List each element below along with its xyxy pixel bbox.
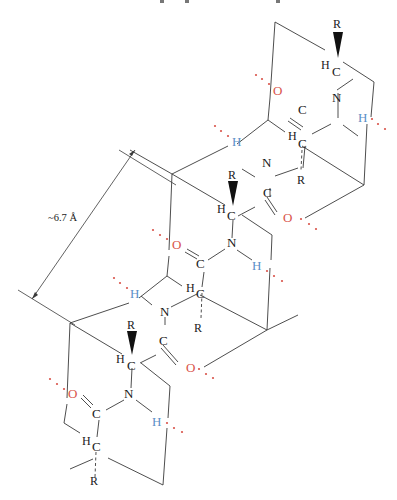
- atom-h-bond-donor: H: [252, 258, 261, 273]
- bond-n-h5: [136, 400, 152, 412]
- measure-tick-bottom: [18, 290, 75, 325]
- bond-n-c: [312, 124, 331, 134]
- double-bond-co-b5: [81, 398, 91, 408]
- atom-c: C: [92, 406, 101, 421]
- atom-r: R: [297, 173, 305, 187]
- wedge-bond-icon-lower: [127, 331, 137, 355]
- atom-n: N: [227, 235, 237, 250]
- atom-h: H: [288, 129, 297, 143]
- atom-h: H: [186, 281, 195, 295]
- cropped-caption-fragment: [160, 0, 280, 3]
- double-bond-co-b4: [161, 348, 176, 365]
- atom-c: C: [159, 333, 168, 348]
- atom-r: R: [228, 168, 236, 182]
- atom-labels: R H C O N C H H N H C R R H C C O O N H …: [68, 17, 367, 488]
- distance-label: ~6.7 Å: [48, 212, 77, 223]
- wedge-bond-icon-top: [333, 32, 343, 58]
- atom-n: N: [124, 386, 134, 401]
- atom-r: R: [90, 474, 98, 488]
- atom-c: C: [227, 208, 236, 223]
- measure-arrow-line: [32, 150, 135, 299]
- peptide-helix-diagram: ~6.7 Å: [0, 0, 397, 500]
- atom-r: R: [194, 321, 202, 335]
- atom-n: N: [262, 155, 272, 170]
- atom-h: H: [217, 202, 226, 216]
- atom-c: C: [298, 136, 307, 151]
- atom-h: H: [116, 352, 125, 366]
- bond-ca-c: [238, 207, 255, 216]
- atom-r: R: [127, 318, 135, 332]
- double-bond-co-a: [290, 118, 303, 127]
- double-bond-co-a3: [187, 249, 199, 256]
- atom-n: N: [160, 304, 170, 319]
- arrowhead-bottom-icon: [32, 292, 38, 299]
- wedge-bond-icon-middle: [228, 181, 238, 206]
- measure-tick-top: [119, 150, 176, 185]
- atom-n: N: [332, 90, 342, 105]
- atom-h-bond-donor: H: [152, 414, 161, 429]
- atom-h-bond-donor: H: [358, 110, 367, 125]
- bond-n-h: [343, 125, 358, 136]
- bond-n-h4: [141, 296, 152, 305]
- bond-ca-c4: [140, 355, 156, 363]
- atom-r: R: [333, 17, 341, 31]
- atom-h-bond-donor: H: [232, 134, 241, 149]
- atom-c: C: [263, 185, 272, 200]
- atom-c: C: [196, 286, 205, 301]
- bond-n-h2: [242, 169, 255, 177]
- bond-n-c5: [106, 400, 124, 410]
- bond-ca-n: [275, 168, 298, 176]
- atom-c: C: [298, 102, 307, 117]
- atom-c: C: [196, 256, 205, 271]
- atom-o: O: [186, 360, 195, 375]
- atom-c: C: [127, 358, 136, 373]
- distance-measurement: ~6.7 Å: [18, 150, 176, 325]
- bond-c-ca3: [202, 272, 204, 287]
- atom-o: O: [273, 83, 282, 98]
- atom-h: H: [82, 434, 91, 448]
- atom-o: O: [68, 386, 77, 401]
- bond-n-c2: [208, 249, 225, 260]
- bond-c-ca6: [97, 420, 99, 437]
- atom-o: O: [172, 237, 181, 252]
- helix-frame: [64, 22, 374, 485]
- atom-c: C: [92, 439, 101, 454]
- bond-n-h3: [237, 250, 252, 260]
- double-bond-co-a5: [83, 395, 93, 405]
- atom-h-bond-donor: H: [130, 286, 139, 301]
- bond-ca-r-dashed: [301, 150, 302, 170]
- bond-ca-n3: [171, 294, 197, 307]
- atom-h: H: [321, 58, 330, 72]
- atom-o: O: [283, 210, 292, 225]
- atom-c: C: [332, 64, 341, 79]
